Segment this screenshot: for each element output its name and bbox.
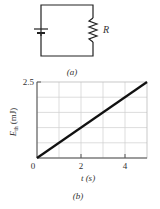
data-line-eth: [37, 82, 147, 158]
caption-b: (b): [73, 191, 84, 201]
circuit-wire-top: [41, 5, 93, 36]
x-tick-label-4: 4: [123, 161, 128, 171]
x-tick-label-2: 2: [79, 161, 84, 171]
resistor-icon: [89, 18, 97, 42]
caption-a: (a): [67, 67, 78, 77]
x-tick-label-0: 0: [31, 161, 36, 171]
y-tick-label-top: 2.5: [23, 77, 35, 87]
circuit-diagram: [34, 5, 97, 56]
resistor-label: R: [102, 24, 109, 35]
y-axis-label: Eth(mJ): [8, 108, 19, 138]
figure-canvas: R (a) 2.5 0 2 4 t (s) Eth(mJ) (b): [0, 0, 160, 209]
x-axis-label: t (s): [81, 173, 95, 183]
svg-text:Eth(mJ): Eth(mJ): [8, 108, 19, 138]
circuit-wire-bottom: [41, 32, 93, 56]
